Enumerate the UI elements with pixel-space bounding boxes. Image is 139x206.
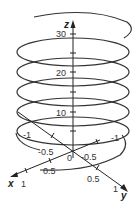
x-tick-neg05: -0.5	[38, 147, 54, 157]
z-tick-10: 10	[56, 108, 66, 118]
x-tick-pos1: 1	[21, 179, 26, 189]
x-axis-arrow-icon	[10, 172, 18, 177]
y-tick-pos05: 0.5	[87, 174, 100, 184]
x-tick-pos05: 0.5	[43, 166, 56, 176]
y-tick-neg05: -0.5	[81, 152, 97, 162]
z-axis-arrow-icon	[71, 20, 76, 28]
z-axis	[70, 26, 76, 158]
helix-plot: z x y 30 20 10 0 -1 -0.5 0.5 1 -1 -0.5 0…	[0, 0, 139, 206]
x-axis-label: x	[7, 178, 14, 189]
helix-curve	[16, 13, 131, 171]
z-tick-30: 30	[56, 29, 66, 39]
y-tick-neg1: -1	[111, 133, 119, 143]
x-tick-neg1: -1	[23, 130, 31, 140]
origin-label: 0	[67, 153, 72, 163]
z-tick-20: 20	[56, 68, 66, 78]
y-axis-label: y	[120, 190, 127, 201]
y-tick-pos1: 1	[113, 184, 118, 194]
